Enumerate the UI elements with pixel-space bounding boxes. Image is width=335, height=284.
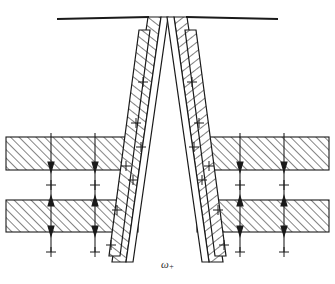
left-top-rail bbox=[57, 17, 149, 19]
right-band-upper bbox=[197, 137, 329, 170]
figure-canvas: ω+ bbox=[0, 0, 335, 284]
omega-subscript: + bbox=[169, 262, 174, 271]
right-top-rail bbox=[186, 17, 278, 19]
omega-caption: ω+ bbox=[0, 258, 335, 271]
diagram-svg bbox=[0, 0, 335, 284]
omega-symbol: ω bbox=[161, 258, 169, 270]
left-band-upper bbox=[6, 137, 138, 170]
